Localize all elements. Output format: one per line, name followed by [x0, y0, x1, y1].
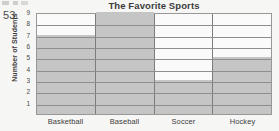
bar-baseball [96, 14, 155, 114]
y-tick-label-6: 6 [26, 44, 30, 51]
x-label-hockey: Hockey [213, 117, 272, 126]
bar-soccer [155, 14, 214, 114]
y-tick-label-2: 2 [26, 89, 30, 96]
y-tick-label-8: 8 [26, 21, 30, 28]
y-tick-label-1: 1 [26, 100, 30, 107]
x-label-soccer: Soccer [154, 117, 213, 126]
y-axis-tick-labels: 987654321 [0, 13, 34, 115]
chart-title: The Favorite Sports [36, 0, 272, 11]
y-tick-label-7: 7 [26, 32, 30, 39]
y-tick-label-3: 3 [26, 78, 30, 85]
y-tick-label-4: 4 [26, 66, 30, 73]
bar-series [37, 14, 271, 114]
x-label-baseball: Baseball [95, 117, 154, 126]
scan-artifact [2, 1, 28, 5]
bar-fill-basketball [37, 35, 95, 114]
bar-fill-hockey [213, 57, 271, 114]
bar-fill-baseball [96, 12, 154, 114]
y-tick-label-5: 5 [26, 55, 30, 62]
x-label-basketball: Basketball [36, 117, 95, 126]
plot-area [36, 13, 272, 115]
y-tick-label-9: 9 [26, 10, 30, 17]
bar-basketball [37, 14, 96, 114]
bar-fill-soccer [155, 80, 213, 114]
x-axis-category-labels: BasketballBaseballSoccerHockey [36, 117, 272, 126]
bar-hockey [213, 14, 271, 114]
